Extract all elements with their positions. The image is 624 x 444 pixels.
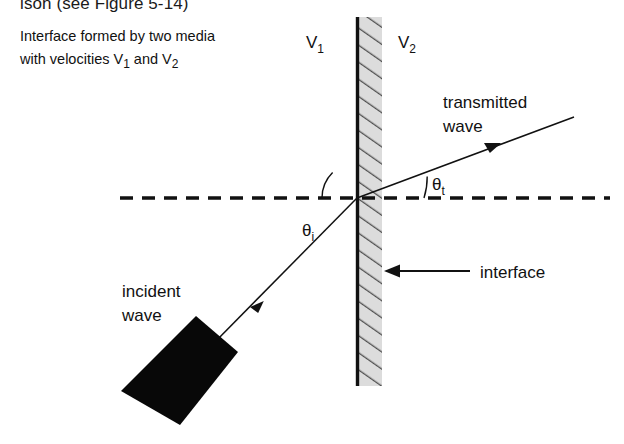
- medium-1-label: V1: [306, 33, 324, 56]
- transmitted-angle-subscript: t: [441, 184, 445, 198]
- caption-line-1: Interface formed by two media: [20, 28, 216, 44]
- interface-band: [358, 17, 383, 386]
- incident-angle-arc: [322, 173, 333, 199]
- transmitted-angle-arc: [424, 177, 427, 199]
- caption-line-2: with velocities V1 and V2: [19, 51, 179, 71]
- medium-2-symbol: V: [398, 33, 410, 52]
- transmitted-wave-label-line-2: wave: [442, 117, 483, 136]
- incident-angle-label: θi: [302, 221, 314, 244]
- incident-angle-subscript: i: [311, 230, 314, 244]
- interface-hatch-fill: [359, 17, 382, 386]
- interface-callout-arrowhead: [384, 265, 400, 278]
- incident-angle-symbol: θ: [302, 221, 311, 240]
- incident-ray-arrowhead: [250, 297, 267, 314]
- refraction-diagram: Interface formed by two media with veloc…: [0, 0, 624, 444]
- caption-line-2-mid: and V: [130, 51, 172, 67]
- medium-2-label: V2: [398, 33, 416, 56]
- transmitted-angle-symbol: θ: [432, 175, 441, 194]
- medium-1-symbol: V: [306, 33, 318, 52]
- transmitted-angle-label: θt: [432, 175, 445, 198]
- figure-canvas: ison (see Figure 5-14): [0, 0, 624, 444]
- medium-1-subscript: 1: [317, 42, 324, 56]
- interface-label: interface: [480, 263, 545, 282]
- transmitted-wave-label-line-1: transmitted: [443, 93, 527, 112]
- incident-wave-label-line-1: incident: [122, 282, 181, 301]
- transducer-block: [121, 316, 238, 425]
- incident-wave-label-line-2: wave: [121, 306, 162, 325]
- transmitted-ray-arrowhead: [484, 137, 503, 153]
- medium-2-subscript: 2: [409, 42, 416, 56]
- incident-ray: [212, 198, 357, 345]
- caption-line-2-prefix: with velocities V: [19, 51, 123, 67]
- interface-callout: [384, 265, 470, 278]
- incident-ray-line: [212, 198, 357, 345]
- caption-sub-2: 2: [172, 57, 179, 71]
